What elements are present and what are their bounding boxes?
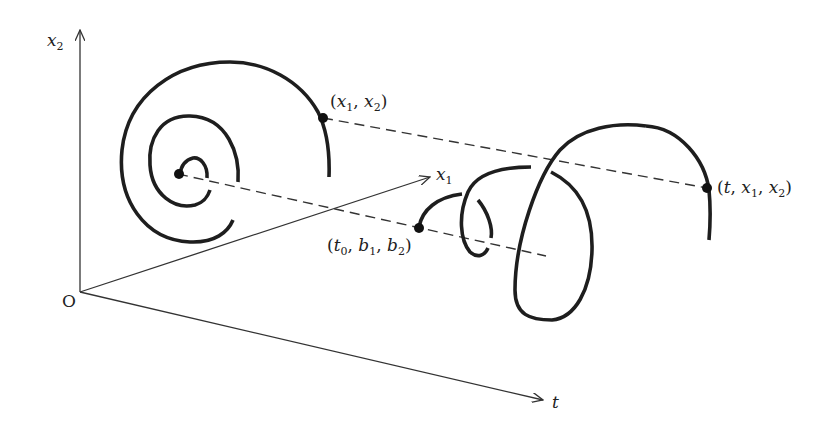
initial-point-label: (t0, b1, b2) bbox=[327, 237, 412, 257]
projection-line-phase-to-trajectory bbox=[323, 118, 707, 188]
diagram-svg bbox=[0, 0, 831, 433]
x2-axis-label: x2 bbox=[47, 32, 64, 52]
trajectory-curve bbox=[419, 125, 710, 320]
trajectory-point bbox=[702, 183, 712, 193]
phase-spiral bbox=[121, 62, 329, 242]
phase-point bbox=[318, 113, 328, 123]
t-axis bbox=[80, 292, 543, 400]
origin-label: O bbox=[62, 293, 76, 310]
diagram-canvas: O x2 x1 t (x1, x2) (t0, b1, b2) (t, x1, … bbox=[0, 0, 831, 433]
spiral-center-point bbox=[174, 169, 184, 179]
initial-point bbox=[414, 223, 424, 233]
phase-point-label: (x1, x2) bbox=[330, 93, 387, 113]
trajectory-point-label: (t, x1, x2) bbox=[717, 179, 792, 199]
x1-axis-label: x1 bbox=[436, 166, 453, 186]
t-axis-label: t bbox=[552, 394, 559, 411]
